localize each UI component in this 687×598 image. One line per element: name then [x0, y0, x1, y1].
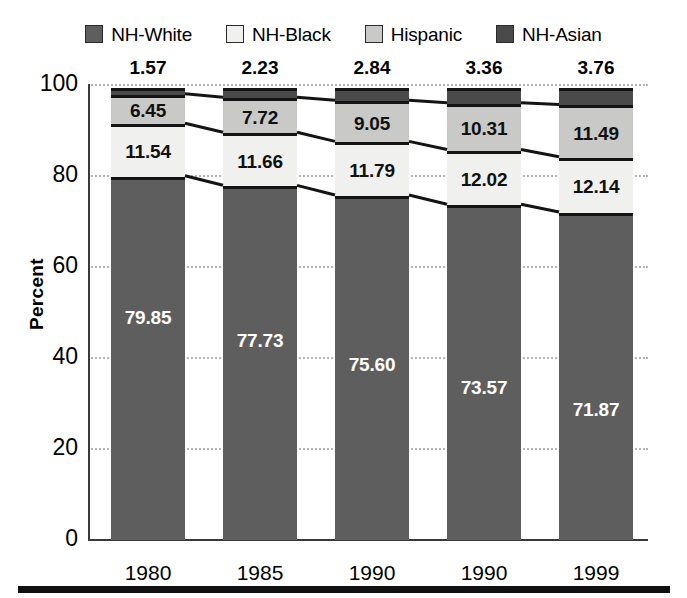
segment-value-label: 77.73: [237, 331, 284, 350]
bar-1980-0: 79.8511.546.45: [111, 85, 185, 540]
segment-hispanic-3: 10.31: [447, 104, 521, 151]
segment-hispanic-4: 11.49: [559, 105, 633, 157]
segment-value-label: 9.05: [354, 114, 390, 133]
connector-line: [521, 103, 559, 105]
y-axis-line: [88, 84, 90, 540]
y-axis-title: Percent: [26, 258, 48, 330]
plot-area: 79.8511.546.4577.7311.667.7275.6011.799.…: [88, 84, 648, 540]
segment-nh-black-0: 11.54: [111, 124, 185, 177]
connector-line: [521, 204, 559, 212]
bottom-divider-rule: [18, 586, 670, 593]
segment-nh-asian-1: [223, 88, 297, 98]
segment-nh-asian-2: [335, 88, 409, 101]
segment-value-label: 79.85: [125, 308, 172, 327]
segment-value-label: 11.66: [237, 152, 283, 171]
connector-line: [409, 195, 447, 204]
segment-nh-white-1: 77.73: [223, 186, 297, 540]
segment-value-label: 73.57: [461, 378, 508, 397]
connector-line: [409, 100, 447, 102]
segment-value-label: 6.45: [130, 101, 166, 120]
segment-value-label: 11.54: [125, 142, 171, 161]
connector-line: [185, 94, 223, 97]
x-tick-0: 1980: [98, 562, 198, 583]
segment-value-label: 11.49: [573, 124, 619, 143]
segment-value-label: 12.02: [461, 170, 508, 189]
connector-line: [521, 150, 559, 157]
segment-nh-black-3: 12.02: [447, 151, 521, 206]
segment-nh-black-1: 11.66: [223, 133, 297, 186]
segment-nh-white-0: 79.85: [111, 177, 185, 540]
segment-hispanic-1: 7.72: [223, 98, 297, 133]
segment-value-label: 11.79: [349, 161, 395, 180]
bar-1985-1: 77.7311.667.72: [223, 85, 297, 540]
x-tick-3: 1990: [434, 562, 534, 583]
x-tick-1: 1985: [210, 562, 310, 583]
segment-nh-white-2: 75.60: [335, 196, 409, 540]
bar-1999-4: 71.8712.1411.49: [559, 85, 633, 540]
connector-line: [297, 185, 335, 195]
segment-nh-white-4: 71.87: [559, 213, 633, 540]
nh-asian-value-label-1: 2.23: [210, 58, 310, 77]
segment-nh-black-4: 12.14: [559, 158, 633, 213]
nh-asian-value-label-4: 3.76: [546, 58, 646, 77]
connector-line: [297, 132, 335, 141]
nh-asian-value-label-3: 3.36: [434, 58, 534, 77]
segment-nh-white-3: 73.57: [447, 205, 521, 540]
connector-line: [297, 97, 335, 100]
segment-nh-asian-4: [559, 88, 633, 105]
connector-line: [409, 141, 447, 149]
x-tick-2: 1990: [322, 562, 422, 583]
x-tick-4: 1999: [546, 562, 646, 583]
segment-nh-black-2: 11.79: [335, 142, 409, 196]
segment-value-label: 10.31: [461, 119, 508, 138]
segment-value-label: 71.87: [573, 400, 620, 419]
connector-line: [185, 123, 223, 132]
segment-hispanic-0: 6.45: [111, 95, 185, 124]
stacked-bar-chart: NH-White NH-Black Hispanic NH-Asian Perc…: [0, 0, 687, 598]
bar-1990-2: 75.6011.799.05: [335, 85, 409, 540]
bar-1990-3: 73.5712.0210.31: [447, 85, 521, 540]
segment-nh-asian-0: [111, 88, 185, 95]
segment-value-label: 7.72: [242, 108, 278, 127]
segment-nh-asian-3: [447, 88, 521, 103]
connector-line: [185, 176, 223, 186]
segment-hispanic-2: 9.05: [335, 101, 409, 142]
segment-value-label: 12.14: [573, 177, 620, 196]
nh-asian-value-label-0: 1.57: [98, 58, 198, 77]
nh-asian-value-label-2: 2.84: [322, 58, 422, 77]
segment-value-label: 75.60: [349, 355, 396, 374]
